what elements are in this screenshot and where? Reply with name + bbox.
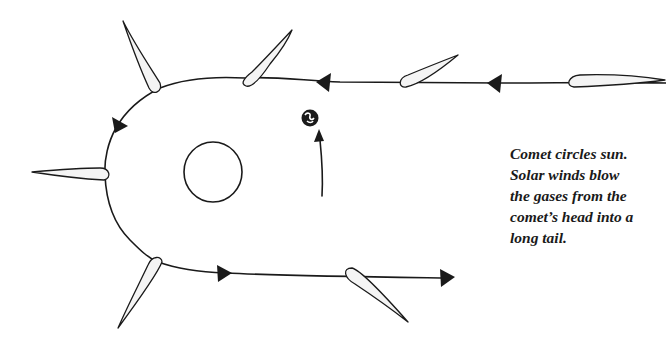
comet-icon <box>123 21 161 92</box>
comet-icon <box>118 257 162 328</box>
comet-icon <box>569 75 665 87</box>
arrow-right-icon <box>217 265 232 282</box>
comet-icon <box>32 168 109 180</box>
caption-line: Solar winds blow <box>510 164 666 185</box>
caption-line: the gases from the <box>510 185 666 206</box>
arrow-left-icon <box>487 74 502 93</box>
earth-arrowhead-icon <box>314 129 324 142</box>
arrow-left-icon <box>316 73 331 92</box>
earth-icon <box>302 110 319 127</box>
sun-circle <box>184 142 242 202</box>
caption-line: Comet circles sun. <box>510 143 666 164</box>
earth-arrow-line <box>320 140 322 196</box>
comet-icon <box>346 268 408 322</box>
caption-text: Comet circles sun. Solar winds blow the … <box>510 143 666 248</box>
caption-line: long tail. <box>510 227 666 248</box>
caption-line: comet’s head into a <box>510 206 666 227</box>
arrow-right-icon <box>440 269 455 287</box>
